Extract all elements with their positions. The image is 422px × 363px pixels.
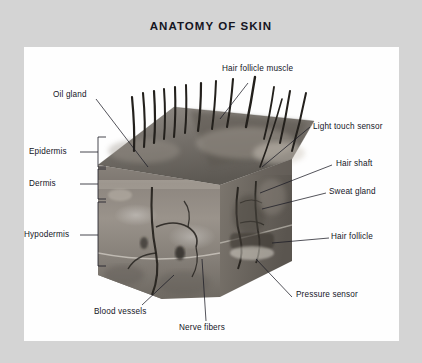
figure-title: ANATOMY OF SKIN — [0, 20, 422, 32]
label-hair-shaft: Hair shaft — [336, 159, 373, 168]
label-oil-gland: Oil gland — [53, 90, 87, 99]
label-light-touch-sensor: Light touch sensor — [313, 122, 383, 131]
label-dermis: Dermis — [29, 179, 56, 188]
label-hair-follicle: Hair follicle — [331, 232, 373, 241]
label-nerve-fibers: Nerve fibers — [179, 323, 225, 332]
label-hair-follicle-muscle: Hair follicle muscle — [222, 64, 293, 73]
figure-frame: ANATOMY OF SKIN — [0, 0, 422, 363]
diagram-panel: Epidermis Dermis Hypodermis Oil gland Ha… — [24, 47, 399, 341]
label-blood-vessels: Blood vessels — [94, 307, 146, 316]
label-pressure-sensor: Pressure sensor — [296, 290, 358, 299]
label-epidermis: Epidermis — [29, 147, 67, 156]
label-sweat-gland: Sweat gland — [329, 187, 376, 196]
label-hypodermis: Hypodermis — [24, 230, 69, 239]
